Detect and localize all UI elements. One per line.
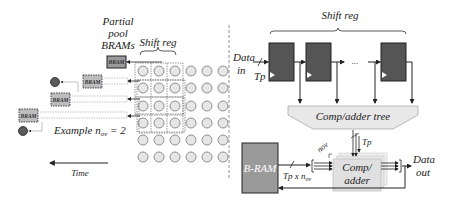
right-panel: Shift reg Data in Tp ... Comp/adder xyxy=(232,9,436,193)
partial-bram-3: BRAM xyxy=(51,93,70,106)
b-ram-label: B-RAM xyxy=(244,162,278,174)
bus-width-label: Tp x nov xyxy=(283,171,312,182)
partial-bram-1: BRAM xyxy=(107,56,126,68)
comp-adder-label-line2: adder xyxy=(344,174,370,186)
left-panel: Partial pool BRAMs Shift reg xyxy=(19,15,229,178)
data-in-label-line1: Data xyxy=(232,51,256,63)
tp-label: Tp xyxy=(254,70,266,82)
shift-reg-brace xyxy=(140,47,176,55)
time-label: Time xyxy=(71,168,89,178)
data-out-label-line2: out xyxy=(416,166,431,178)
comp-adder-label-line1: Comp/ xyxy=(342,161,372,173)
architecture-diagram: Partial pool BRAMs Shift reg xyxy=(0,0,453,204)
nov-label: nov xyxy=(315,140,330,155)
left-shift-reg-label: Shift reg xyxy=(139,36,177,48)
partial-pool-title-line3: BRAMs xyxy=(101,39,135,51)
svg-text:BRAM: BRAM xyxy=(52,97,70,103)
shift-register-chain: ... xyxy=(269,43,412,103)
svg-text:BRAM: BRAM xyxy=(108,59,126,65)
output-dot-2 xyxy=(19,127,28,136)
partial-pool-title-line1: Partial xyxy=(101,15,133,27)
right-shift-reg-brace xyxy=(270,28,406,34)
svg-text:BRAM: BRAM xyxy=(84,79,102,85)
data-in-label-line2: in xyxy=(237,64,246,76)
ellipsis: ... xyxy=(352,56,359,66)
partial-pool-title-line2: pool xyxy=(107,27,128,39)
partial-bram-2: BRAM xyxy=(83,75,102,88)
partial-bram-4: BRAM xyxy=(19,109,38,122)
pixel-grid xyxy=(135,63,228,162)
example-label: Example nov = 2 xyxy=(53,124,126,138)
comp-adder-tree-label: Comp/adder tree xyxy=(316,110,391,122)
data-out-label-line1: Data xyxy=(412,153,436,165)
tp-top-label: Tp xyxy=(362,137,372,147)
right-shift-reg-label: Shift reg xyxy=(321,9,359,21)
output-dot-1 xyxy=(51,78,60,87)
svg-text:BRAM: BRAM xyxy=(20,113,38,119)
